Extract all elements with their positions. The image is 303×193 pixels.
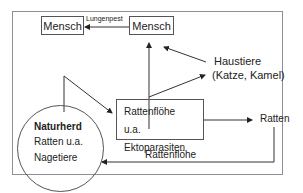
mensch-left-node: Mensch [41, 16, 84, 35]
lungenpest-label: Lungenpest [86, 15, 123, 22]
rattenfloehe-line1: Rattenflöhe [124, 103, 203, 121]
rattenfloehe-node: Rattenflöhe u.a. Ektoparasiten [116, 99, 204, 140]
mensch-right-node: Mensch [129, 16, 174, 35]
ratten-label: Ratten [260, 113, 289, 124]
naturherd-title: Naturherd [34, 121, 82, 132]
rattenfloehe-edge-label: Rattenflöhe [145, 149, 196, 160]
naturherd-line3: Nagetiere [34, 152, 77, 163]
mensch-left-label: Mensch [43, 20, 82, 32]
haustiere-label-line1: Haustiere [214, 55, 261, 67]
naturherd-node [17, 105, 104, 192]
naturherd-line2: Ratten u.a. [34, 136, 83, 147]
haustiere-label-line2: (Katze, Kamel) [212, 69, 285, 81]
mensch-right-label: Mensch [132, 20, 171, 32]
